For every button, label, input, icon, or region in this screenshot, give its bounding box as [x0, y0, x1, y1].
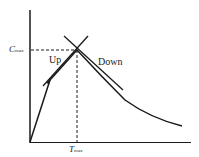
- down-label: Down: [98, 57, 122, 67]
- cmax-sub: max: [15, 48, 23, 53]
- pk-curve-diagram: [0, 0, 199, 157]
- cmax-label: Cmax: [9, 45, 23, 54]
- arrow-icon: [46, 77, 52, 84]
- tmax-sub: max: [74, 148, 82, 153]
- up-label: Up: [49, 55, 61, 65]
- tmax-label: Tmax: [69, 145, 82, 154]
